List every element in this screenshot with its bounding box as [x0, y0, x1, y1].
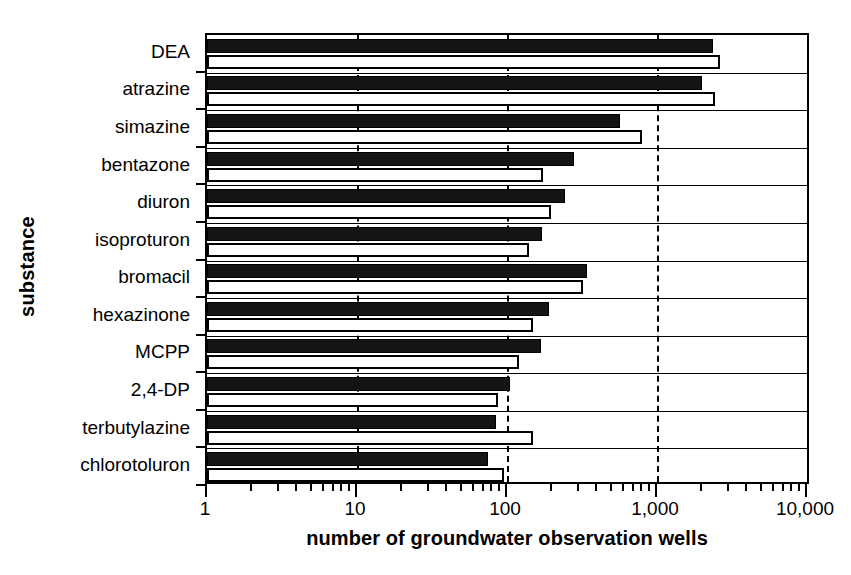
y-axis-tick	[196, 484, 205, 486]
bar-filled	[207, 114, 620, 128]
x-axis-major-tick	[205, 484, 207, 497]
category-label: chlorotoluron	[80, 455, 190, 474]
x-axis-minor-tick	[550, 484, 552, 491]
plot-area	[205, 33, 809, 484]
x-axis-minor-tick	[490, 484, 492, 491]
x-axis-minor-tick	[277, 484, 279, 491]
bar-row	[207, 73, 807, 111]
x-axis-minor-tick	[400, 484, 402, 491]
x-axis-minor-tick	[798, 484, 800, 491]
category-label: DEA	[151, 42, 190, 61]
x-axis-minor-tick	[782, 484, 784, 491]
y-axis-tick	[196, 371, 205, 373]
y-axis-tick	[196, 183, 205, 185]
x-axis-minor-tick	[427, 484, 429, 491]
y-axis-tick	[196, 221, 205, 223]
x-tick-group	[205, 484, 809, 498]
y-axis-tick	[196, 334, 205, 336]
bar-row	[207, 298, 807, 336]
bar-open	[207, 393, 498, 407]
bar-row	[207, 336, 807, 374]
bar-filled	[207, 189, 565, 203]
bar-open	[207, 205, 551, 219]
category-label: simazine	[115, 117, 190, 136]
x-axis-minor-tick	[745, 484, 747, 491]
bar-filled	[207, 152, 574, 166]
category-label: hexazinone	[93, 305, 190, 324]
x-axis-minor-tick	[727, 484, 729, 491]
y-axis-tick	[196, 108, 205, 110]
x-axis-minor-tick	[577, 484, 579, 491]
x-axis-minor-tick	[250, 484, 252, 491]
y-axis-tick	[196, 409, 205, 411]
y-axis-tick	[196, 296, 205, 298]
bar-filled	[207, 377, 510, 391]
bar-row	[207, 148, 807, 186]
category-label: bentazone	[101, 155, 190, 174]
x-axis-title: number of groundwater observation wells	[205, 527, 809, 550]
x-axis-tick-label: 10	[344, 498, 365, 520]
y-axis-tick	[196, 259, 205, 261]
x-axis-minor-tick	[622, 484, 624, 491]
bar-open	[207, 55, 720, 69]
chart-container: substance DEAatrazinesimazinebentazonedi…	[0, 0, 851, 575]
category-label: 2,4-DP	[131, 380, 190, 399]
category-label-group: DEAatrazinesimazinebentazonediuronisopro…	[0, 33, 198, 484]
x-axis-minor-tick	[595, 484, 597, 491]
x-axis-tick-label: 10,000	[776, 498, 834, 520]
x-axis-minor-tick	[632, 484, 634, 491]
bar-row	[207, 261, 807, 299]
bar-filled	[207, 452, 488, 466]
category-label: atrazine	[122, 79, 190, 98]
x-axis-major-tick	[355, 484, 357, 497]
bar-open	[207, 318, 533, 332]
x-axis-minor-tick	[790, 484, 792, 491]
x-axis-minor-tick	[700, 484, 702, 491]
x-axis-minor-tick	[460, 484, 462, 491]
x-axis-minor-tick	[332, 484, 334, 491]
x-axis-minor-tick	[472, 484, 474, 491]
y-axis-tick	[196, 446, 205, 448]
x-axis-tick-label: 1	[200, 498, 211, 520]
bar-filled	[207, 76, 702, 90]
bar-row	[207, 185, 807, 223]
bar-open	[207, 243, 529, 257]
bar-row	[207, 448, 807, 486]
x-axis-major-tick	[505, 484, 507, 497]
bar-filled	[207, 415, 496, 429]
category-label: terbutylazine	[82, 418, 190, 437]
x-axis-tick-label: 100	[489, 498, 521, 520]
x-axis-minor-tick	[310, 484, 312, 491]
category-label: bromacil	[118, 267, 190, 286]
bar-row	[207, 110, 807, 148]
x-axis-minor-tick	[760, 484, 762, 491]
x-axis-major-tick	[655, 484, 657, 497]
x-axis-minor-tick	[640, 484, 642, 491]
x-axis-major-tick	[805, 484, 807, 497]
bar-open	[207, 431, 533, 445]
x-axis-minor-tick	[772, 484, 774, 491]
category-label: diuron	[137, 192, 190, 211]
x-axis-minor-tick	[445, 484, 447, 491]
bar-open	[207, 355, 519, 369]
bar-filled	[207, 39, 713, 53]
bar-row	[207, 35, 807, 73]
bar-open	[207, 168, 543, 182]
category-label: MCPP	[135, 342, 190, 361]
bar-open	[207, 280, 583, 294]
x-axis-minor-tick	[610, 484, 612, 491]
bar-row	[207, 223, 807, 261]
bar-filled	[207, 264, 587, 278]
x-axis-minor-tick	[322, 484, 324, 491]
bar-row	[207, 373, 807, 411]
y-axis-tick	[196, 71, 205, 73]
bar-open	[207, 130, 642, 144]
x-tick-label-group: 1101001,00010,000	[0, 498, 851, 528]
bar-open	[207, 92, 715, 106]
bar-filled	[207, 227, 542, 241]
bar-filled	[207, 302, 549, 316]
category-label: isoproturon	[95, 230, 190, 249]
x-axis-minor-tick	[295, 484, 297, 491]
x-axis-minor-tick	[348, 484, 350, 491]
x-axis-minor-tick	[498, 484, 500, 491]
